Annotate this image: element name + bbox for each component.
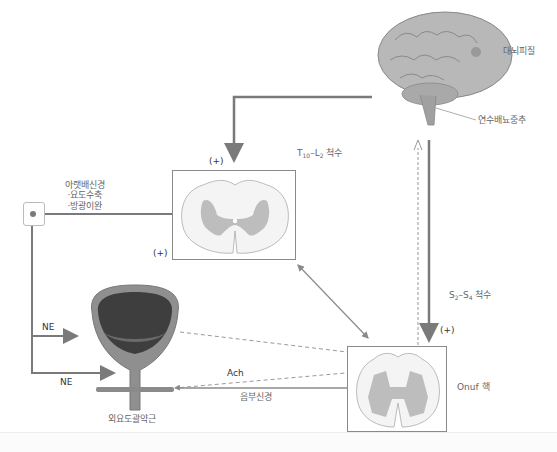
plus-sign-right: (+) [440, 325, 455, 335]
ne-lower-label: NE [60, 377, 72, 387]
sacral-cord-label: S2–S4 척수 [449, 290, 491, 302]
onuf-nucleus-label: Onuf 핵 [457, 382, 490, 392]
spinal-cord-section-icon [348, 347, 448, 433]
ne-upper-label: NE [42, 322, 54, 332]
ach-label: Ach [227, 368, 244, 378]
external-sphincter-label: 외요도괄약근 [108, 414, 156, 424]
sacral-cord-box [347, 346, 447, 432]
pudendal-nerve-label: 음부신경 [240, 392, 272, 402]
caption-band [0, 432, 557, 452]
